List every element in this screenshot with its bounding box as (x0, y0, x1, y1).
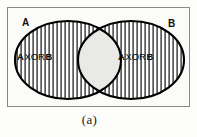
set-label-b: B (168, 19, 175, 29)
region-right-operator: XOR (125, 51, 147, 62)
region-right-operand-a: A (118, 51, 125, 62)
region-left-operand-a: A (17, 51, 24, 62)
region-left-operator: XOR (24, 51, 46, 62)
venn-figure: A B AXORB AXORB (a) (0, 0, 197, 137)
region-right-operand-b: B (146, 51, 153, 62)
diagram-frame: A B AXORB AXORB (7, 7, 190, 107)
set-label-a: A (22, 18, 29, 28)
region-label-right: AXORB (118, 52, 153, 62)
region-left-operand-b: B (45, 51, 52, 62)
region-label-left: AXORB (17, 52, 52, 62)
figure-caption: (a) (0, 112, 197, 128)
